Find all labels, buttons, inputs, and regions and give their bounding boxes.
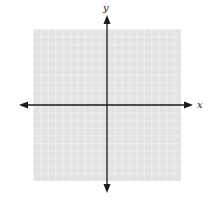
y-axis-up-arrow-icon xyxy=(104,15,111,24)
y-axis-label: y xyxy=(102,2,109,13)
x-axis-right-arrow-icon xyxy=(184,102,193,109)
x-axis-label: x xyxy=(197,99,203,110)
coordinate-plane: y x xyxy=(0,0,214,209)
y-axis-down-arrow-icon xyxy=(104,184,111,193)
x-axis-left-arrow-icon xyxy=(19,102,28,109)
